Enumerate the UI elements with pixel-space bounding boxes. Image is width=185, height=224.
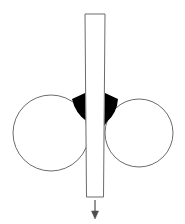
diagram-canvas — [0, 0, 185, 224]
nip-roller-diagram — [0, 0, 185, 224]
vertical-strip — [85, 14, 105, 197]
